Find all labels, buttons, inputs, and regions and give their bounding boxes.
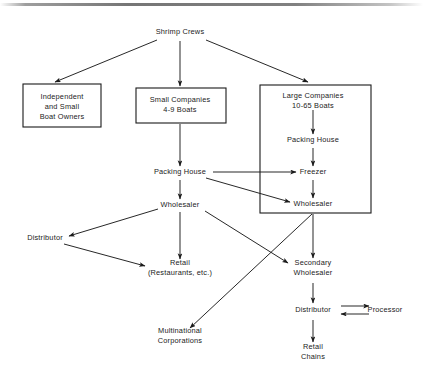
node-label-independent_small_boat_owners-line-2: Boat Owners [40, 112, 85, 121]
node-label-small_companies-line-1: 4-9 Boats [163, 105, 196, 114]
node-label-retail_chains-line-1: Chains [301, 352, 325, 361]
node-label-bottom_distributor-line-0: Distributor [295, 305, 331, 314]
node-label-independent_small_boat_owners-line-0: Independent [40, 92, 83, 101]
edge-wholesaler-to-distributor [69, 209, 158, 236]
flowchart-svg: Shrimp CrewsIndependentand SmallBoat Own… [0, 0, 423, 382]
node-shrimp_crews: Shrimp Crews [156, 27, 205, 36]
node-large_wholesaler: Wholesaler [294, 199, 333, 208]
node-label-large_companies-line-0: Large Companies [282, 91, 343, 100]
node-label-retail-line-0: Retail [170, 258, 190, 267]
edge-wholesaler-to-secondary [205, 211, 288, 263]
node-wholesaler: Wholesaler [161, 200, 200, 209]
node-label-small_companies-line-0: Small Companies [150, 95, 211, 104]
node-retail: Retail(Restaurants, etc.) [148, 258, 212, 277]
node-large_packing_house: Packing House [287, 135, 339, 144]
node-bottom_distributor: Distributor [295, 305, 331, 314]
edge-distributor-to-retail [64, 244, 145, 266]
node-label-secondary_wholesaler-line-0: Secondary [295, 258, 332, 267]
edge-crews-to-independent [55, 40, 157, 82]
node-retail_chains: RetailChains [301, 342, 325, 361]
edge-packing-to-large-wholesaler [206, 178, 290, 202]
node-label-large_packing_house-line-0: Packing House [287, 135, 339, 144]
edge-crews-to-large [206, 40, 308, 82]
nodes-layer: Shrimp CrewsIndependentand SmallBoat Own… [27, 27, 403, 361]
node-freezer: Freezer [300, 167, 327, 176]
node-packing_house: Packing House [154, 167, 206, 176]
node-label-shrimp_crews-line-0: Shrimp Crews [156, 27, 205, 36]
node-label-secondary_wholesaler-line-1: Wholesaler [294, 268, 333, 277]
node-distributor: Distributor [27, 233, 63, 242]
node-label-distributor-line-0: Distributor [27, 233, 63, 242]
node-label-large_wholesaler-line-0: Wholesaler [294, 199, 333, 208]
node-label-retail-line-1: (Restaurants, etc.) [148, 268, 212, 277]
node-label-retail_chains-line-0: Retail [303, 342, 323, 351]
node-independent_small_boat_owners: Independentand SmallBoat Owners [40, 92, 85, 121]
node-secondary_wholesaler: SecondaryWholesaler [294, 258, 333, 277]
node-label-independent_small_boat_owners-line-1: and Small [45, 102, 80, 111]
node-large_companies: Large Companies10-65 Boats [282, 91, 343, 110]
node-label-processor-line-0: Processor [368, 305, 403, 314]
flowchart-canvas: Shrimp CrewsIndependentand SmallBoat Own… [0, 0, 423, 382]
node-processor: Processor [368, 305, 403, 314]
node-small_companies: Small Companies4-9 Boats [150, 95, 211, 114]
node-label-large_companies-line-1: 10-65 Boats [292, 101, 334, 110]
node-label-wholesaler-line-0: Wholesaler [161, 200, 200, 209]
node-label-freezer-line-0: Freezer [300, 167, 327, 176]
node-label-packing_house-line-0: Packing House [154, 167, 206, 176]
node-label-multinational_corporations-line-1: Corporations [158, 336, 203, 345]
node-multinational_corporations: MultinationalCorporations [158, 326, 203, 345]
node-label-multinational_corporations-line-0: Multinational [158, 326, 202, 335]
